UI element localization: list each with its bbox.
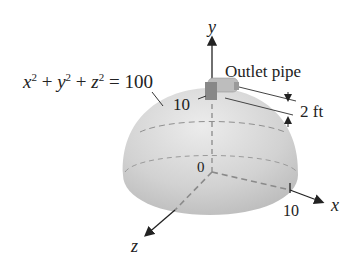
equation-label: x2 + y2 + z2 = 100 xyxy=(23,72,153,91)
z-axis-label: z xyxy=(131,237,138,255)
z-axis xyxy=(146,210,175,235)
hemisphere-diagram xyxy=(0,0,359,263)
x-tick-label: 10 xyxy=(283,203,299,219)
hemisphere xyxy=(123,88,298,215)
pipe-dimension-label: 2 ft xyxy=(300,103,323,120)
y-axis-label: y xyxy=(208,18,216,36)
origin-label: 0 xyxy=(197,160,205,175)
x-axis-label: x xyxy=(331,196,339,214)
outlet-pipe-label: Outlet pipe xyxy=(225,63,301,80)
top-tick-label: 10 xyxy=(173,96,190,113)
x-axis xyxy=(290,190,322,202)
